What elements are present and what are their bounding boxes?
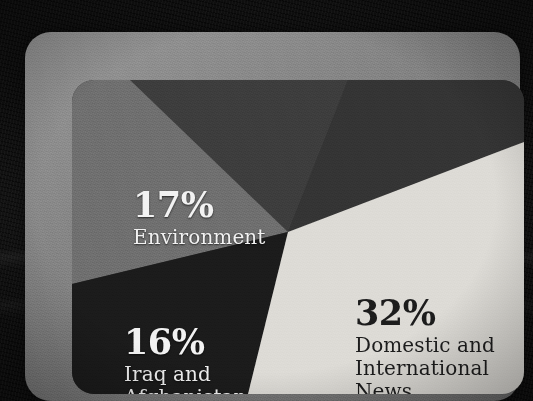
slice-percent-news-politics: 32% <box>355 294 524 332</box>
slice-category-iraq-line1: Iraq and <box>124 363 247 386</box>
slice-category-news-line1: Domestic and <box>355 334 524 357</box>
slice-category-environment-line1: Environment <box>133 226 265 249</box>
pie-chart: 17% Environment 16% Iraq and Afghanistan… <box>72 80 524 394</box>
slice-category-news-line2: International News <box>355 357 524 394</box>
slice-percent-iraq-afghanistan: 16% <box>124 323 247 361</box>
slice-category-iraq-line2: Afghanistan <box>124 386 247 394</box>
chart-card-frame: 17% Environment 16% Iraq and Afghanistan… <box>25 32 520 401</box>
slice-label-news-politics: 32% Domestic and International News and … <box>355 294 524 394</box>
slice-label-environment: 17% Environment <box>133 186 265 249</box>
photographed-infographic: 17% Environment 16% Iraq and Afghanistan… <box>0 0 533 401</box>
slice-label-iraq-afghanistan: 16% Iraq and Afghanistan <box>124 323 247 394</box>
slice-percent-environment: 17% <box>133 186 265 224</box>
